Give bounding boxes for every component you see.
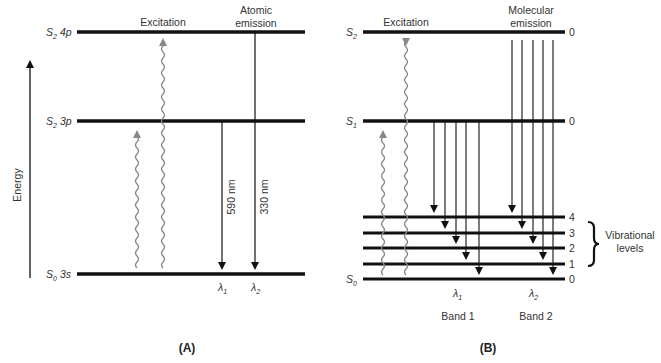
panel-b-caption: (B) <box>480 341 497 355</box>
lambda-2-b: λ2 <box>528 287 538 301</box>
atomic-emission-label-2: emission <box>235 17 277 29</box>
excitation-wave-arrow-3p <box>136 134 139 268</box>
energy-level-diagram: Energy S24p S23p S03s Excitation Atomic … <box>0 0 661 363</box>
s1-vib-0: 0 <box>569 115 575 127</box>
band-2-label: Band 2 <box>519 310 552 322</box>
excitation-label: Excitation <box>140 16 186 28</box>
vib-num-4: 4 <box>569 211 575 223</box>
band-2-arrows <box>512 40 553 271</box>
vib-num-1: 1 <box>569 258 575 270</box>
panel-b: S2 S1 S0 0 0 4 3 2 1 0 Vibrational level… <box>346 4 655 355</box>
panel-a: Energy S24p S23p S03s Excitation Atomic … <box>11 4 305 355</box>
excitation-wave-arrow-s2 <box>405 41 408 275</box>
excitation-wave-arrow-s1 <box>382 134 385 275</box>
vibrational-levels-label-2: levels <box>617 242 644 254</box>
label-s0: S0 <box>346 273 357 287</box>
label-s1: S1 <box>346 115 357 129</box>
lambda-2-a: λ2 <box>250 281 260 295</box>
label-s2-4p: S24p <box>46 26 72 40</box>
panel-a-caption: (A) <box>179 341 196 355</box>
band-1-label: Band 1 <box>441 310 474 322</box>
vib-num-3: 3 <box>569 227 575 239</box>
vibrational-levels-label-1: Vibrational <box>605 229 654 241</box>
label-s0-3s: S03s <box>46 268 72 282</box>
vibrational-brace-icon <box>588 222 599 266</box>
molecular-emission-label-2: emission <box>510 17 552 29</box>
wavelength-590nm: 590 nm <box>225 179 237 214</box>
vib-num-0: 0 <box>569 273 575 285</box>
energy-axis-label: Energy <box>11 168 23 202</box>
label-s2: S2 <box>346 26 357 40</box>
excitation-wave-arrow-4p <box>162 42 165 268</box>
lambda-1-a: λ1 <box>217 281 227 295</box>
s2-vib-0: 0 <box>569 26 575 38</box>
wavelength-330nm: 330 nm <box>258 179 270 214</box>
vib-num-2: 2 <box>569 242 575 254</box>
molecular-emission-label-1: Molecular <box>508 4 554 16</box>
excitation-label-b: Excitation <box>383 16 429 28</box>
atomic-emission-label-1: Atomic <box>240 4 272 16</box>
lambda-1-b: λ1 <box>452 287 462 301</box>
label-s2-3p: S23p <box>46 115 72 129</box>
